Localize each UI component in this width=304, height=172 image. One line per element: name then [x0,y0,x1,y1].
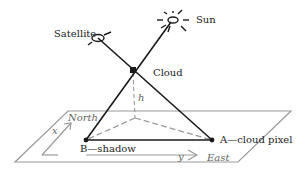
height-label: h [138,92,144,103]
cloud-pixel-point-a [210,138,215,143]
satellite-label: Satellite [54,28,96,39]
point-b-label: B—shadow [80,143,136,154]
cloud-shadow-geometry-diagram: Satellite Sun Cloud h North x y East A—c… [0,0,304,172]
east-label: East [206,152,230,163]
y-axis-label: y [177,151,184,162]
cloud-point [130,67,136,73]
satellite-view-ray [98,38,212,140]
point-a-label: A—cloud pixel [219,134,292,145]
shadow-point-b [84,138,89,143]
north-label: North [67,112,98,123]
cloud-label: Cloud [153,67,183,78]
sun-label: Sun [196,14,216,25]
sun-icon [157,10,189,32]
x-axis-label: x [52,125,58,136]
